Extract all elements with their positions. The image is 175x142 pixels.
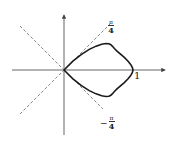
label-neg-pi-over-4-denominator: 4 [109, 122, 115, 131]
label-pi-over-4: π 4 [108, 18, 114, 35]
label-pi-over-4-denominator: 4 [108, 26, 114, 35]
label-x-intercept-one: 1 [134, 71, 140, 81]
label-neg-pi-over-4: − π 4 [100, 114, 115, 131]
polar-loop-figure [0, 0, 175, 142]
label-neg-sign: − [100, 119, 108, 128]
dashed-ray-neg-pi-over-4 [20, 26, 103, 109]
